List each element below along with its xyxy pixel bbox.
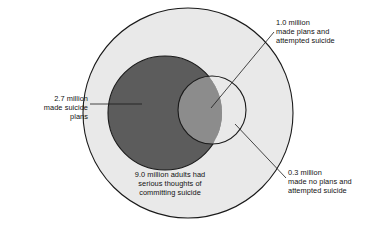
diagram-canvas <box>0 0 392 230</box>
nested-circle-diagram: 1.0 million made plans and attempted sui… <box>0 0 392 230</box>
circle-attempted-suicide <box>178 76 246 144</box>
